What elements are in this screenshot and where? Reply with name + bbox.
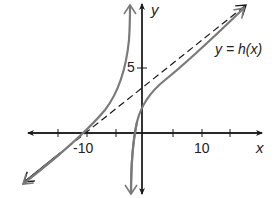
graph-canvas: y 5 -10 10 x y = h(x)	[0, 0, 274, 198]
x-tick-label-neg10: -10	[73, 141, 93, 155]
y-tick-label-5: 5	[127, 60, 135, 74]
graph-svg	[0, 0, 274, 198]
y-axis	[137, 4, 147, 194]
curve-right-branch	[131, 8, 244, 194]
curve-left-branch	[23, 5, 130, 184]
function-label: y = h(x)	[215, 42, 262, 56]
x-axis-label: x	[256, 140, 264, 155]
x-axis	[28, 129, 262, 137]
x-tick-label-10: 10	[194, 141, 210, 155]
y-axis-label: y	[151, 2, 159, 17]
